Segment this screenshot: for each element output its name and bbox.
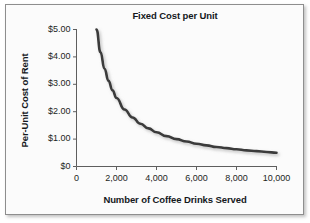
data-series-line [97,30,277,153]
y-axis-tick-marks [73,30,77,167]
axis-lines [77,29,278,167]
chart-figure: Fixed Cost per Unit Per-Unit Cost of Ren… [0,0,310,223]
plot-area [0,0,310,223]
x-axis-tick-marks [77,167,277,171]
